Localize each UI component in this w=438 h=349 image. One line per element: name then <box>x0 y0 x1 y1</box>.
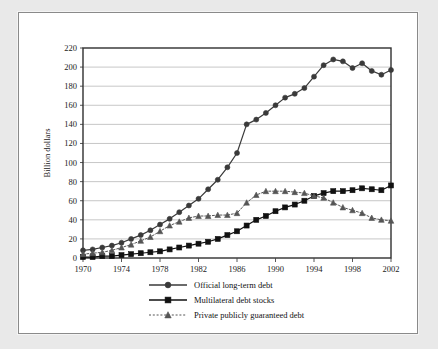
data-point <box>196 196 201 201</box>
y-tick-label: 20 <box>69 234 78 244</box>
data-point <box>244 122 249 127</box>
y-tick-label: 220 <box>64 43 77 53</box>
data-point <box>302 86 307 91</box>
data-point <box>235 151 240 156</box>
data-point <box>225 233 230 238</box>
series-private-publicly-guaranteed-debt <box>80 188 394 256</box>
data-point <box>119 245 125 250</box>
data-point <box>263 188 269 193</box>
data-point <box>273 209 278 214</box>
data-point <box>283 95 288 100</box>
x-tick-label: 1990 <box>267 264 284 274</box>
data-point <box>215 177 220 182</box>
data-point <box>331 189 336 194</box>
legend-item-multilateral-debt-stocks: Multilateral debt stocks <box>149 295 274 305</box>
data-point <box>128 242 134 247</box>
data-point <box>129 252 134 257</box>
legend-label: Private publicly guaranteed debt <box>194 310 305 320</box>
data-point <box>282 188 288 193</box>
figure-background: 0204060801001201401601802002201970197419… <box>0 0 438 349</box>
x-tick-label: 2002 <box>383 264 400 274</box>
line-chart: 0204060801001201401601802002201970197419… <box>19 13 417 333</box>
y-tick-label: 180 <box>64 81 77 91</box>
data-point <box>360 186 365 191</box>
data-point <box>302 198 307 203</box>
data-point <box>138 251 143 256</box>
data-point <box>119 253 124 258</box>
data-point <box>177 210 182 215</box>
data-point <box>225 165 230 170</box>
chart-area: 0204060801001201401601802002201970197419… <box>19 13 417 333</box>
data-point <box>148 228 153 233</box>
data-point <box>369 187 374 192</box>
data-point <box>263 214 268 219</box>
data-point <box>167 247 172 252</box>
data-point <box>360 61 365 66</box>
y-tick-label: 40 <box>69 215 78 225</box>
y-tick-label: 120 <box>64 138 77 148</box>
data-point <box>350 188 355 193</box>
legend-label: Official long-term debt <box>194 280 273 290</box>
x-tick-label: 1982 <box>190 264 207 274</box>
data-point <box>369 215 375 220</box>
data-point <box>379 72 384 77</box>
x-tick-label: 1974 <box>113 264 131 274</box>
data-point <box>389 67 394 72</box>
legend-label: Multilateral debt stocks <box>194 295 274 305</box>
data-point <box>138 233 143 238</box>
data-point <box>340 59 345 64</box>
data-point <box>340 205 346 210</box>
y-axis-title: Billion dollars <box>42 129 52 178</box>
data-point <box>196 213 202 218</box>
data-point <box>312 74 317 79</box>
legend-marker <box>165 282 171 288</box>
legend-item-official-long-term-debt: Official long-term debt <box>149 280 273 290</box>
data-point <box>206 187 211 192</box>
data-point <box>129 236 134 241</box>
y-tick-label: 60 <box>69 196 78 206</box>
y-tick-label: 80 <box>69 177 78 187</box>
data-point <box>177 245 182 250</box>
data-point <box>254 117 259 122</box>
x-tick-label: 1978 <box>152 264 169 274</box>
data-point <box>148 250 153 255</box>
y-tick-label: 100 <box>64 158 77 168</box>
data-point <box>273 103 278 108</box>
y-tick-label: 140 <box>64 119 77 129</box>
data-point <box>206 239 211 244</box>
x-tick-label: 1970 <box>75 264 92 274</box>
y-tick-label: 0 <box>73 253 77 263</box>
legend-item-private-publicly-guaranteed-debt: Private publicly guaranteed debt <box>149 310 305 320</box>
data-point <box>158 222 163 227</box>
legend-marker <box>165 297 171 303</box>
data-point <box>292 91 297 96</box>
data-point <box>157 228 163 233</box>
data-point <box>254 217 259 222</box>
data-point <box>379 188 384 193</box>
data-point <box>292 202 297 207</box>
data-point <box>167 223 173 228</box>
data-point <box>109 254 114 259</box>
x-tick-label: 1998 <box>344 264 361 274</box>
data-point <box>350 66 355 71</box>
data-point <box>196 241 201 246</box>
data-point <box>186 243 191 248</box>
y-tick-label: 200 <box>64 62 77 72</box>
data-point <box>215 236 220 241</box>
chart-panel: 0204060801001201401601802002201970197419… <box>18 12 418 334</box>
x-tick-label: 1994 <box>306 264 324 274</box>
data-point <box>389 183 394 188</box>
data-point <box>167 216 172 221</box>
data-point <box>340 189 345 194</box>
data-point <box>369 68 374 73</box>
x-tick-label: 1986 <box>229 264 246 274</box>
data-point <box>148 234 154 239</box>
data-point <box>283 205 288 210</box>
data-point <box>331 57 336 62</box>
data-point <box>253 192 259 197</box>
data-point <box>321 63 326 68</box>
data-point <box>263 110 268 115</box>
x-axis: 197019741978198219861990199419982002 <box>75 258 400 274</box>
data-point <box>186 203 191 208</box>
data-point <box>158 249 163 254</box>
